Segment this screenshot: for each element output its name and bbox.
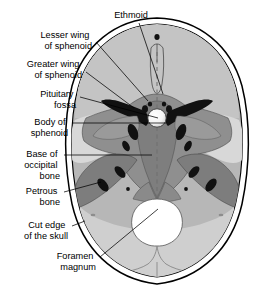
label-base-of-occipital-bone: Base of occipital bone bbox=[24, 149, 60, 181]
skull-base-diagram: Ethmoid Lesser wing of sphenoid Greater … bbox=[0, 0, 275, 290]
label-foramen-magnum: Foramen magnum bbox=[57, 251, 97, 272]
sutural-mark-right bbox=[219, 214, 224, 216]
skull-body-group bbox=[66, 18, 249, 284]
hypoglossal-canal-left bbox=[126, 187, 130, 191]
label-lesser-wing-of-sphenoid: Lesser wing of sphenoid bbox=[40, 30, 92, 51]
label-cut-edge-of-the-skull: Cut edge of the skull bbox=[24, 220, 68, 241]
foramen-rotundum-right bbox=[166, 105, 172, 113]
label-greater-wing-of-sphenoid: Greater wing of sphenoid bbox=[27, 59, 82, 80]
skull-diagram-figure: Ethmoid Lesser wing of sphenoid Greater … bbox=[0, 0, 275, 290]
hypoglossal-canal-right bbox=[184, 187, 188, 191]
sutural-mark-left bbox=[91, 214, 96, 216]
label-body-of-sphenoid: Body of sphenoid bbox=[31, 117, 68, 138]
label-pituitary-fossa: Pituitary fossa bbox=[40, 89, 77, 110]
frontal-crest-foramen bbox=[154, 34, 159, 40]
foramen-rotundum-left bbox=[142, 105, 148, 113]
label-petrous-bone: Petrous bone bbox=[26, 186, 60, 207]
foramen-magnum bbox=[132, 199, 183, 246]
label-ethmoid: Ethmoid bbox=[114, 10, 148, 20]
optic-canal-left bbox=[148, 101, 152, 106]
optic-canal-right bbox=[162, 101, 166, 106]
